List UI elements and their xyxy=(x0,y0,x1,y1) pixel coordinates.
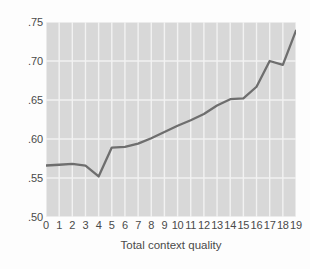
x-tick-label: 13 xyxy=(211,219,223,231)
x-tick-label: 7 xyxy=(135,219,141,231)
x-tick-label: 14 xyxy=(224,219,236,231)
x-tick-label: 0 xyxy=(43,219,49,231)
x-tick-label: 6 xyxy=(122,219,128,231)
y-axis-tick-labels: .50.55.60.65.70.75 xyxy=(0,0,46,269)
x-tick-label: 11 xyxy=(185,219,196,231)
x-tick-label: 5 xyxy=(109,219,115,231)
x-tick-label: 4 xyxy=(96,219,102,231)
x-tick-label: 8 xyxy=(148,219,154,231)
x-gridlines xyxy=(46,22,296,217)
y-tick-label: .50 xyxy=(28,211,43,223)
chart-figure: Eighth-grade success .50.55.60.65.70.75 … xyxy=(0,0,310,269)
plot-area xyxy=(46,22,296,217)
x-tick-label: 17 xyxy=(264,219,276,231)
x-tick-label: 12 xyxy=(198,219,210,231)
y-tick-label: .65 xyxy=(28,94,43,106)
y-tick-label: .70 xyxy=(28,55,43,67)
x-tick-label: 15 xyxy=(237,219,249,231)
x-axis-title: Total context quality xyxy=(46,239,296,251)
x-tick-label: 10 xyxy=(172,219,184,231)
y-tick-label: .60 xyxy=(28,133,43,145)
y-tick-label: .75 xyxy=(28,16,43,28)
x-tick-label: 3 xyxy=(83,219,89,231)
data-line-series xyxy=(46,31,296,177)
x-tick-label: 9 xyxy=(161,219,167,231)
x-axis-tick-labels: 012345678910111213141516171819 xyxy=(46,219,296,239)
y-gridlines xyxy=(46,22,296,217)
x-tick-label: 18 xyxy=(277,219,289,231)
x-tick-label: 2 xyxy=(69,219,75,231)
plot-svg xyxy=(46,22,296,217)
x-tick-label: 16 xyxy=(251,219,263,231)
y-tick-label: .55 xyxy=(28,172,43,184)
x-tick-label: 1 xyxy=(56,219,62,231)
x-tick-label: 19 xyxy=(290,219,302,231)
